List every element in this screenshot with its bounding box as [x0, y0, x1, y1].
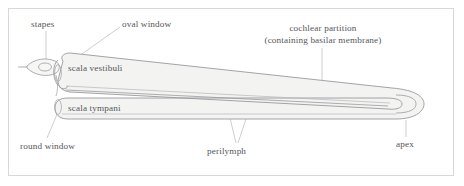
label-scala-vestibuli: scala vestibuli [68, 63, 123, 75]
label-perilymph: perilymph [207, 146, 246, 158]
leader-round-window [47, 112, 58, 138]
label-stapes: stapes [31, 19, 54, 31]
cochlea-basal-neck [56, 75, 58, 96]
stapes-bone [18, 59, 59, 76]
label-oval-window: oval window [122, 19, 171, 31]
label-apex: apex [396, 139, 414, 151]
label-scala-tympani: scala tympani [68, 103, 121, 115]
label-round-window: round window [20, 141, 75, 153]
label-cochlear-partition-line1: cochlear partition [256, 23, 390, 35]
cochlea-figure: stapes oval window cochlear partition (c… [0, 0, 464, 186]
label-cochlear-partition-line2: (containing basilar membrane) [256, 35, 390, 47]
label-cochlear-partition: cochlear partition (containing basilar m… [256, 23, 390, 46]
cochlea-illustration [0, 0, 464, 186]
